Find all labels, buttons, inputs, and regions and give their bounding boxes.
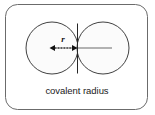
radius-symbol-label: r (61, 34, 65, 44)
figure-caption: covalent radius (45, 85, 108, 96)
covalent-radius-figure: r covalent radius (0, 0, 155, 115)
diagram-canvas: r covalent radius (0, 0, 155, 115)
